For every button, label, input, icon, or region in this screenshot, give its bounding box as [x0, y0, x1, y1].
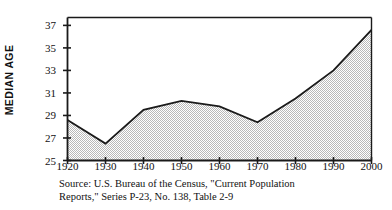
median-age-chart-figure: MEDIAN AGE 25272931333537 19201930194019… — [0, 0, 392, 210]
area-fill — [68, 30, 372, 161]
source-note: Source: U.S. Bureau of the Census, "Curr… — [59, 178, 359, 203]
source-note-line-1: Source: U.S. Bureau of the Census, "Curr… — [59, 178, 359, 191]
source-note-line-2: Reports," Series P-23, No. 138, Table 2-… — [59, 191, 359, 204]
